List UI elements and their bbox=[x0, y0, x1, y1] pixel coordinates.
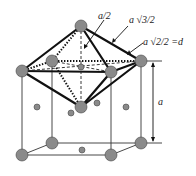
atom-center-small bbox=[78, 64, 84, 70]
atom-back-right bbox=[135, 55, 147, 67]
atom-bottom-front-right bbox=[105, 149, 117, 161]
atom-bottom-front-left bbox=[16, 149, 28, 161]
atom-front-left bbox=[16, 65, 28, 77]
atom-bottom-apex bbox=[75, 101, 87, 113]
atom-front-right bbox=[105, 66, 117, 78]
atom-small bbox=[79, 147, 85, 153]
crystal-structure-diagram bbox=[0, 0, 196, 176]
label-leaders bbox=[84, 20, 143, 55]
atom-bottom-back-left bbox=[46, 137, 58, 149]
label-half-a: a/2 bbox=[98, 11, 111, 21]
atom-small bbox=[94, 100, 100, 106]
label-lattice-a: a bbox=[158, 97, 163, 107]
atom-small bbox=[68, 110, 74, 116]
atom-back-left bbox=[46, 55, 58, 67]
atom-bottom-back-right bbox=[135, 137, 147, 149]
atom-top-apex bbox=[75, 20, 87, 32]
atoms bbox=[16, 20, 147, 161]
atom-small bbox=[123, 104, 129, 110]
label-a-sqrt3-over-2: a √3/2 bbox=[129, 15, 155, 25]
label-a-sqrt2-over-2-d: a √2/2 =d bbox=[143, 37, 183, 47]
atom-small bbox=[34, 104, 40, 110]
